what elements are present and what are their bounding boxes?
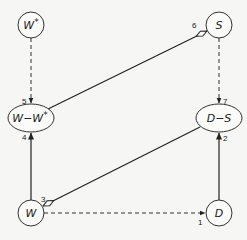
node-wmw-label: W−W bbox=[12, 112, 44, 125]
node-s: S bbox=[206, 12, 232, 38]
node-w-label: W bbox=[26, 207, 38, 220]
edge-label-7: 7 bbox=[223, 97, 228, 106]
flow-diagram: W* S W−W* D−S W D 1 2 3 4 5 6 7 bbox=[0, 0, 247, 240]
edge-label-6: 6 bbox=[192, 21, 197, 30]
edge-label-1: 1 bbox=[198, 218, 203, 227]
node-w-star: W* bbox=[18, 12, 44, 38]
edge-label-5: 5 bbox=[22, 97, 27, 106]
edge-label-3: 3 bbox=[41, 195, 46, 204]
node-d-minus-s: D−S bbox=[196, 104, 242, 132]
edge-6-wmw-to-s bbox=[48, 31, 207, 109]
node-s-label: S bbox=[216, 19, 223, 32]
node-dms-label: D−S bbox=[207, 112, 232, 125]
edge-3-dms-to-w bbox=[43, 127, 200, 206]
edge-label-2: 2 bbox=[223, 134, 228, 143]
svg-text:W−W*: W−W* bbox=[12, 110, 48, 125]
node-d: D bbox=[206, 200, 232, 226]
node-d-label: D bbox=[215, 207, 223, 220]
node-w-minus-w-star: W−W* bbox=[8, 104, 54, 132]
edge-label-4: 4 bbox=[22, 133, 27, 142]
